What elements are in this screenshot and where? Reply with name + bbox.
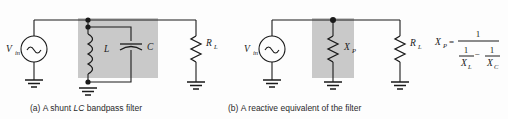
resistor-zigzag-icon-a: [191, 36, 201, 62]
caption-b-text: A reactive equivalent of the filter: [241, 103, 362, 113]
formula-lhs-sub: P: [442, 42, 447, 49]
reactance-sublabel: P: [351, 47, 356, 54]
inductor-label: L: [103, 44, 109, 54]
caption-a: (a) A shunt LC bandpass filter: [30, 103, 142, 113]
source-label-b: V: [244, 44, 251, 54]
ground-icon-load-a: [187, 82, 205, 89]
circuit-figure: V in L C R L: [0, 0, 508, 119]
panel-b-circuit: V in X P R L: [244, 17, 422, 89]
sine-wave-icon-a: [27, 47, 41, 53]
formula-group: X P = 1 1 X L − 1 X C: [434, 29, 500, 70]
ground-icon-load-b: [391, 82, 409, 89]
load-sublabel-b: L: [417, 43, 422, 50]
source-label-a: V: [6, 44, 13, 54]
load-label-a: R: [205, 38, 212, 48]
formula-denom-right-numerator: 1: [490, 45, 495, 55]
panel-a-circuit: V in L C R L: [6, 17, 218, 95]
load-label-b: R: [409, 38, 416, 48]
ground-icon-xp: [324, 82, 342, 89]
formula-lhs: X: [434, 37, 442, 47]
formula-denom-left-numerator: 1: [464, 45, 469, 55]
source-sublabel-a: in: [15, 49, 20, 56]
formula-denom-left-den: X: [460, 58, 468, 68]
caption-b: (b) A reactive equivalent of the filter: [228, 103, 361, 113]
caption-a-italic: LC: [73, 103, 84, 113]
formula-denom-right-den-sub: C: [494, 63, 499, 70]
figure-root: V in L C R L: [0, 0, 508, 119]
reactance-label: X: [343, 42, 351, 52]
caption-a-index: (a): [30, 103, 40, 113]
node-dot-a-bottom: [85, 79, 90, 84]
formula-denom-left-den-sub: L: [467, 63, 472, 70]
formula-denom-right-den: X: [486, 58, 494, 68]
ground-icon-lc-a: [79, 88, 97, 95]
formula-denom-operator: −: [474, 49, 479, 59]
caption-b-index: (b): [228, 103, 238, 113]
capacitor-label: C: [147, 42, 154, 52]
ground-icon-source-a: [25, 80, 43, 87]
resistor-zigzag-icon-b: [395, 36, 405, 62]
ground-icon-source-b: [263, 80, 281, 87]
formula-numerator: 1: [476, 29, 481, 39]
formula-equals: =: [449, 37, 454, 47]
caption-a-text-2: bandpass filter: [84, 103, 142, 113]
sine-wave-icon-b: [265, 47, 279, 53]
load-sublabel-a: L: [213, 43, 218, 50]
source-sublabel-b: in: [253, 49, 258, 56]
caption-a-text-1: A shunt: [43, 103, 74, 113]
